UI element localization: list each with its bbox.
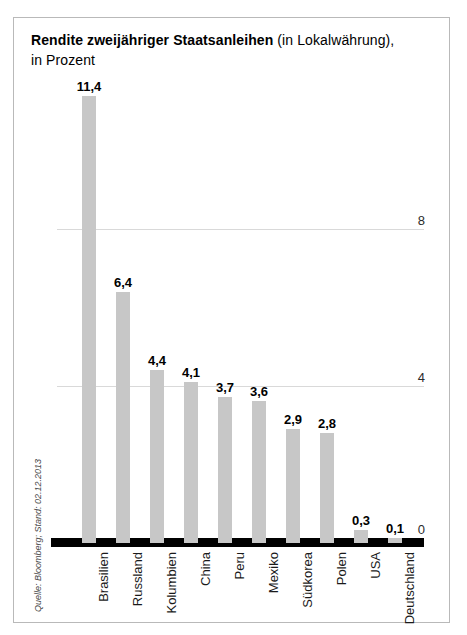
x-axis-label: USA <box>368 552 383 630</box>
y-axis-tick-label: 8 <box>395 213 425 228</box>
zero-axis-line <box>51 538 424 547</box>
bar <box>116 292 130 543</box>
bar <box>354 530 368 543</box>
x-axis-label: Brasilien <box>96 552 111 630</box>
bar <box>82 96 96 543</box>
bar-value-label: 11,4 <box>67 79 111 94</box>
x-axis-label: Russland <box>130 552 145 630</box>
bar-value-label: 3,6 <box>237 384 281 399</box>
source-note: Quelle: Bloomberg; Stand: 02.12.2013 <box>32 459 44 624</box>
x-axis-label: Peru <box>232 552 247 630</box>
bar-value-label: 0,1 <box>373 521 417 536</box>
y-axis-tick-label: 4 <box>395 370 425 385</box>
bar <box>184 382 198 543</box>
bar-value-label: 2,8 <box>305 416 349 431</box>
x-axis-label: Südkorea <box>300 552 315 630</box>
bar-value-label: 4,1 <box>169 365 213 380</box>
chart-title-line2: in Prozent <box>31 52 95 68</box>
gridline <box>57 229 424 230</box>
page: Rendite zweijähriger Staatsanleihen (in … <box>0 0 467 635</box>
bar <box>286 429 300 543</box>
bar <box>320 433 334 543</box>
chart-title-suffix: (in Lokalwährung), <box>273 32 394 48</box>
chart-title: Rendite zweijähriger Staatsanleihen (in … <box>31 30 431 70</box>
x-axis-label: Mexiko <box>266 552 281 630</box>
bar <box>150 370 164 543</box>
chart-frame: Rendite zweijähriger Staatsanleihen (in … <box>13 17 450 623</box>
chart-title-bold: Rendite zweijähriger Staatsanleihen <box>31 32 273 48</box>
x-axis-label: Polen <box>334 552 349 630</box>
bar <box>252 401 266 543</box>
x-axis-label: Kolumbien <box>164 552 179 630</box>
x-axis-label: Deutschland <box>402 552 417 630</box>
bar <box>388 538 402 543</box>
bar <box>218 397 232 543</box>
bar-value-label: 6,4 <box>101 275 145 290</box>
x-axis-label: China <box>198 552 213 630</box>
